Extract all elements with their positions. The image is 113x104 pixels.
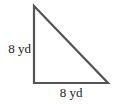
right-triangle: [34, 6, 108, 83]
bottom-side-label: 8 yd: [60, 85, 83, 100]
left-side-label: 8 yd: [8, 41, 31, 56]
triangle-diagram: 8 yd 8 yd: [0, 0, 113, 104]
